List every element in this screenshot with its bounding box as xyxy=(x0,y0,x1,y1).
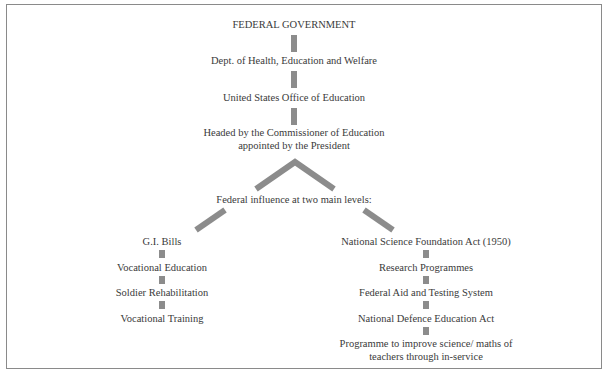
connector-bar xyxy=(159,276,165,284)
node-soldier-rehabilitation: Soldier Rehabilitation xyxy=(116,286,208,299)
branch-connectors xyxy=(0,0,610,377)
node-programme-line2: teachers through in-service xyxy=(369,350,483,363)
connector-bar xyxy=(423,276,429,284)
node-research-programmes: Research Programmes xyxy=(379,261,473,274)
connector-bar xyxy=(159,250,165,258)
node-vocational-education: Vocational Education xyxy=(117,261,207,274)
node-nsf-act: National Science Foundation Act (1950) xyxy=(341,235,511,248)
node-gi-bills: G.I. Bills xyxy=(143,235,182,248)
node-federal-aid-testing: Federal Aid and Testing System xyxy=(359,286,493,299)
node-vocational-training: Vocational Training xyxy=(121,312,204,325)
node-ndea: National Defence Education Act xyxy=(358,312,494,325)
node-programme-line1: Programme to improve science/ maths of xyxy=(340,337,513,350)
connector-bar xyxy=(159,301,165,309)
connector-bar xyxy=(423,250,429,258)
connector-bar xyxy=(423,301,429,309)
node-federal-influence: Federal influence at two main levels: xyxy=(216,193,371,206)
connector-bar xyxy=(423,327,429,335)
